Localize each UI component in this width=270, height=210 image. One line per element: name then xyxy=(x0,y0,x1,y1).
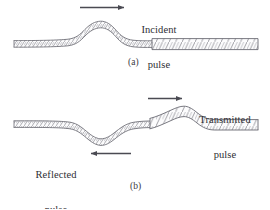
reflected-pulse-label: Reflected pulse xyxy=(26,146,86,209)
panel-b-tag: (b) xyxy=(130,181,141,191)
transmitted-pulse-label-line2: pulse xyxy=(188,149,262,161)
reflected-pulse-label-line2: pulse xyxy=(26,204,86,210)
transmitted-pulse-label: Transmitted pulse xyxy=(188,91,262,183)
reflected-pulse-label-line1: Reflected xyxy=(26,169,86,181)
incident-pulse-label-line1: Incident xyxy=(128,24,190,36)
transmitted-pulse-label-line1: Transmitted xyxy=(188,114,262,126)
incident-pulse-label: Incident pulse xyxy=(128,1,190,93)
panel-a-tag: (a) xyxy=(128,57,139,67)
physics-figure-wave-reflection-transmission: Incident pulse (a) Transmitted pulse Ref… xyxy=(0,0,270,209)
